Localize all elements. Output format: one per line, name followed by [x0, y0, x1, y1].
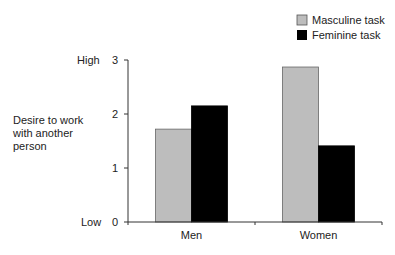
y-tick-label: 2	[112, 108, 118, 120]
y-tick-label: 1	[112, 162, 118, 174]
bar-women-masculine-task	[283, 67, 319, 222]
legend-label-masculine: Masculine task	[312, 14, 385, 26]
y-tick-label: 0	[112, 216, 118, 228]
bars-group	[156, 67, 355, 222]
y-tick-label: 3	[112, 54, 118, 66]
x-tick-label: Men	[181, 229, 202, 241]
legend-swatch-masculine	[297, 15, 307, 25]
legend: Masculine task Feminine task	[297, 14, 385, 41]
legend-swatch-feminine	[297, 30, 307, 40]
bar-men-masculine-task	[156, 129, 192, 222]
y-anchor-low: Low	[81, 216, 101, 228]
bar-men-feminine-task	[192, 106, 228, 222]
x-tick-label: Women	[300, 229, 338, 241]
bar-women-feminine-task	[319, 146, 355, 222]
y-axis-label-line-3: person	[13, 140, 47, 152]
y-anchor-high: High	[77, 54, 100, 66]
y-ticks-group: 0123	[112, 54, 128, 228]
y-axis-label-line-1: Desire to work	[13, 114, 84, 126]
legend-label-feminine: Feminine task	[312, 29, 381, 41]
x-labels-group: MenWomen	[181, 229, 338, 241]
y-axis-label-line-2: with another	[12, 127, 73, 139]
bar-chart: Masculine task Feminine task Desire to w…	[0, 0, 395, 255]
